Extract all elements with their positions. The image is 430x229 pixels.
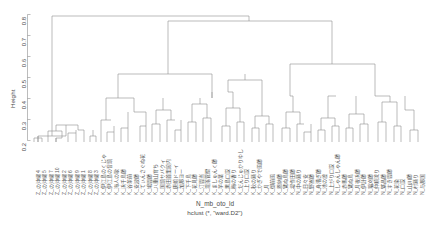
leaf-label: K_芋の葉 bbox=[218, 174, 223, 195]
leaf-label: K_御前風 bbox=[270, 174, 275, 195]
leaf-label: K_花見節 bbox=[192, 174, 197, 195]
leaf-label: N_野嵩節 bbox=[309, 174, 314, 195]
leaf-label: N_鷲ぬ鳥 bbox=[348, 174, 353, 195]
leaf-label: N_池の渡 bbox=[322, 174, 327, 195]
x-axis-label: N_mb_oto_ld bbox=[0, 200, 430, 207]
leaf-label: K_てぃんさぐぬ花 bbox=[140, 154, 145, 195]
leaf-label: N_口説 bbox=[400, 179, 405, 195]
leaf-label: K_谷茶前 bbox=[127, 174, 132, 195]
leaf-label: K_鷲ぬ鳥節 bbox=[283, 169, 288, 195]
leaf-label: K_上り口説 bbox=[244, 169, 249, 195]
leaf-label: N_中の踊り bbox=[296, 169, 301, 195]
leaf-label: N_すき間節 bbox=[387, 169, 392, 195]
leaf-label: K_八重山育ち bbox=[153, 164, 158, 195]
leaf-label: N_伊計節 bbox=[361, 174, 366, 195]
leaf-label: K_赤田首里殿内 bbox=[166, 159, 171, 195]
leaf-label: K_加那ヨー bbox=[179, 169, 184, 195]
leaf-label: Z_の沖縄 5 bbox=[42, 170, 47, 195]
leaf-label: N_しゃんしゃん節 bbox=[335, 154, 340, 195]
dendrogram-plot: Height 0.2 0.3 0.4 0.5 0.6 0.7 0.8 bbox=[0, 0, 430, 229]
leaf-label: K_瀧落菅撹 bbox=[205, 169, 210, 195]
leaf-label: K_海人の歌 bbox=[114, 169, 119, 195]
leaf-label: K_梅の香り bbox=[231, 169, 236, 195]
plot-subtitle: hclust (*, "ward.D2") bbox=[0, 209, 430, 216]
leaf-label: N_仲順流り bbox=[374, 169, 379, 195]
leaf-label: K_かぎやで風節 bbox=[257, 159, 262, 195]
leaf-label: N_村踊り bbox=[413, 174, 418, 195]
leaf-label: N_与那国 bbox=[420, 174, 425, 195]
